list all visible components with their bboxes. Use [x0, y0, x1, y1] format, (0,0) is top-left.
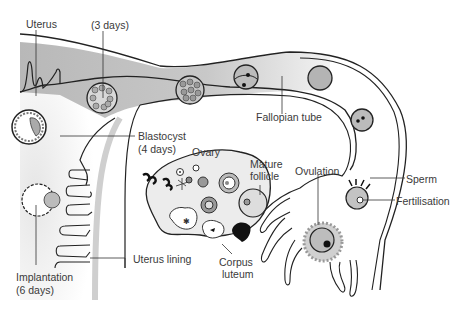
- label-corpus-luteum-2: luteum: [222, 268, 254, 280]
- label-blastocyst: Blastocyst: [138, 130, 186, 142]
- ovulated-egg: [304, 223, 342, 261]
- label-sperm: Sperm: [406, 173, 437, 185]
- label-ovary: Ovary: [192, 146, 220, 158]
- label-corpus-luteum-1: Corpus: [219, 256, 253, 268]
- morula-8cell: [176, 76, 204, 104]
- label-mature-follicle-1: Mature: [250, 158, 283, 170]
- uterus-lining-shade: [95, 118, 120, 300]
- label-uterus: Uterus: [26, 18, 57, 30]
- morula-3-days: [87, 83, 117, 113]
- zygote-2cell: [234, 65, 258, 89]
- label-implantation: Implantation: [16, 271, 73, 283]
- pronuclei-egg: [351, 109, 373, 131]
- label-mature-follicle-2: follicle: [250, 170, 279, 182]
- fertilised-egg: [346, 179, 370, 209]
- egg-in-tube: [308, 66, 332, 90]
- svg-text:✱: ✱: [183, 217, 190, 226]
- label-fallopian-tube: Fallopian tube: [256, 111, 322, 123]
- corpus-luteum: [232, 223, 251, 242]
- label-uterus-lining: Uterus lining: [133, 253, 191, 265]
- label-ovulation: Ovulation: [295, 165, 339, 177]
- label-fertilisation: Fertilisation: [396, 195, 450, 207]
- blastocyst: [12, 110, 46, 144]
- label-3-days: (3 days): [91, 19, 129, 31]
- label-implantation-days: (6 days): [16, 284, 54, 296]
- label-blastocyst-days: (4 days): [138, 143, 176, 155]
